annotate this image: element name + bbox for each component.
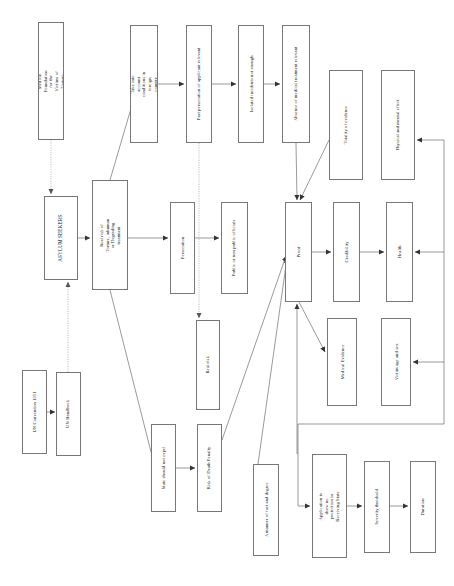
- node-label-physical_mental: Physical and mental effect: [395, 99, 401, 150]
- node-duration: Duration: [410, 461, 436, 553]
- node-label-real_risk_torture: Real risk of Torture, inhuman or Degradi…: [99, 218, 122, 252]
- node-victim_age_sex: Victim age and sex: [381, 318, 411, 406]
- edge-feedback-to-physical: [417, 140, 444, 252]
- node-isolated_incidents: Isolated incidents not enough: [238, 25, 264, 143]
- node-label-risk_death_penalty: Risk of Death Penalty: [207, 447, 213, 490]
- node-un_handbook: UN Handbook: [56, 372, 81, 456]
- node-past_persecution: Past persecution of applicant relevant: [186, 25, 212, 143]
- node-totality_evidence: Totality of evidence: [329, 70, 363, 180]
- node-label-duration: Duration: [420, 495, 426, 519]
- node-proof: Proof: [285, 202, 312, 302]
- node-real_risk_torture: Real risk of Torture, inhuman or Degradi…: [92, 180, 128, 290]
- edge-totality-to-proof: [300, 140, 329, 200]
- node-health: Health: [386, 202, 413, 302]
- node-un_convention: UN Convention 1951: [22, 370, 47, 454]
- node-label-public_officials: Public or non public officials: [232, 220, 238, 277]
- node-label-medical_evidence: Medical Evidence: [339, 345, 345, 380]
- node-physical_mental: Physical and mental effect: [381, 70, 415, 180]
- node-take_into_account: Take into account conditions in foreign …: [130, 25, 158, 143]
- node-label-severity_threshold: Severity threshold: [374, 489, 380, 524]
- node-label-absence_medical: Absence of medical treatment relevant: [293, 47, 299, 122]
- node-severity_threshold: Severity threshold: [364, 461, 390, 553]
- node-label-take_into_account: Take into account conditions in foreign …: [130, 71, 158, 97]
- node-matter_fact_degree: A manner of fact and degree: [253, 464, 279, 556]
- node-label-persecution: Persecution: [180, 236, 186, 259]
- edge-matter-to-proof: [258, 258, 287, 464]
- node-label-credibility: Credibility: [344, 239, 350, 264]
- node-label-totality_evidence: Totality of evidence: [343, 106, 349, 145]
- node-real_risk: Real risk: [196, 320, 220, 410]
- node-label-matter_fact_degree: A manner of fact and degree: [263, 483, 269, 538]
- edge-absence-to-proof: [296, 143, 297, 200]
- node-label-real_risk: Real risk: [205, 354, 211, 376]
- node-application_protection: Application to show no protection in Rec…: [312, 454, 347, 558]
- node-risk_death_penalty: Risk of Death Penalty: [197, 424, 222, 512]
- node-persecution: Persecution: [170, 202, 195, 294]
- node-asylum_seekers: ASYLUM SEEKERS: [44, 196, 78, 280]
- node-public_officials: Public or non public officials: [221, 202, 248, 294]
- node-label-victim_age_sex: Victim age and sex: [393, 344, 399, 381]
- edge-proof-to-medevidence: [299, 302, 325, 352]
- node-label-past_persecution: Past persecution of applicant relevant: [196, 48, 202, 121]
- node-label-un_convention: UN Convention 1951: [32, 391, 38, 432]
- node-label-health: Health: [397, 239, 403, 264]
- node-label-proof: Proof: [296, 239, 302, 264]
- node-label-un_handbook: UN Handbook: [66, 400, 72, 428]
- edge-feedback-to-victim: [413, 362, 444, 424]
- node-label-medical_foundation: Medical Foundation for the Victims of To…: [38, 69, 64, 93]
- node-label-asylum_seekers: ASYLUM SEEKERS: [58, 214, 65, 261]
- edge-feedback-to-health: [415, 252, 444, 362]
- flowchart-canvas: Medical Foundation for the Victims of To…: [0, 0, 454, 586]
- node-medical_evidence: Medical Evidence: [327, 318, 357, 406]
- node-label-state_not_expel: State should not expel: [161, 447, 167, 490]
- edge-realrisktorture-to-state: [110, 290, 151, 452]
- node-credibility: Credibility: [333, 202, 360, 302]
- node-label-application_protection: Application to show no protection in Rec…: [318, 490, 341, 523]
- node-absence_medical: Absence of medical treatment relevant: [282, 25, 310, 143]
- node-medical_foundation: Medical Foundation for the Victims of To…: [38, 22, 64, 140]
- node-state_not_expel: State should not expel: [151, 424, 176, 512]
- node-label-isolated_incidents: Isolated incidents not enough: [248, 56, 254, 113]
